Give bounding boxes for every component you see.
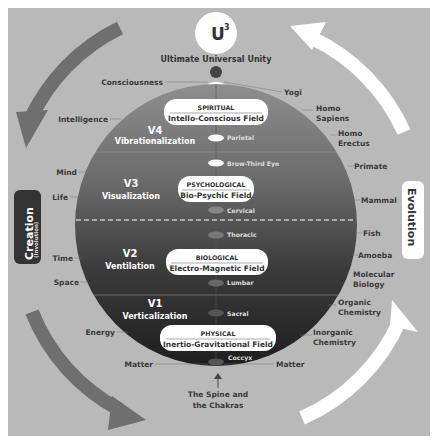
- field-biological: BIOLOGICAL Electro-Magnetic Field: [166, 249, 268, 275]
- svg-text:Inertio-Gravitational Field: Inertio-Gravitational Field: [163, 340, 273, 349]
- caption-line1: The Spine and: [188, 390, 248, 399]
- svg-text:Sacral: Sacral: [227, 310, 249, 317]
- svg-text:BIOLOGICAL: BIOLOGICAL: [196, 254, 239, 261]
- label-inorganic-chemistry: InorganicChemistry: [313, 328, 356, 347]
- label-mammal: Mammal: [361, 196, 397, 205]
- label-organic-chemistry: OrganicChemistry: [338, 298, 381, 317]
- level-v4-name: Vibrationalization: [115, 137, 196, 146]
- chakra-sacral: Sacral: [208, 310, 249, 318]
- field-spiritual: SPIRITUAL Intello-Conscious Field: [164, 99, 268, 125]
- level-v1-id: V1: [148, 298, 163, 309]
- label-homo-erectus: HomoErectus: [338, 129, 370, 148]
- svg-text:(Involution): (Involution): [33, 221, 39, 258]
- label-molecular-biology: MolecularBiology: [353, 270, 395, 289]
- label-yogi: Yogi: [283, 88, 302, 97]
- level-v4-id: V4: [148, 125, 163, 136]
- svg-text:SPIRITUAL: SPIRITUAL: [198, 104, 235, 111]
- caption-line2: the Chakras: [193, 401, 244, 410]
- svg-text:Intello-Conscious Field: Intello-Conscious Field: [168, 114, 264, 123]
- label-life: Life: [52, 193, 68, 202]
- chakra-evolution-diagram: U 3 Ultimate Universal Unity SPIRITUAL I…: [0, 0, 437, 443]
- chakra-cervical: Cervical: [208, 207, 255, 215]
- chakra-parietal: Parietal: [208, 134, 254, 142]
- label-energy: Energy: [85, 328, 115, 337]
- label-matter-right: Matter: [276, 360, 305, 369]
- label-space: Space: [54, 278, 79, 287]
- up-arrow-icon: [214, 373, 222, 379]
- label-amoeba: Amoeba: [358, 251, 392, 260]
- level-v3-id: V3: [124, 178, 139, 189]
- unity-symbol: U: [211, 24, 225, 44]
- svg-text:PSYCHOLOGICAL: PSYCHOLOGICAL: [187, 181, 246, 188]
- label-mind: Mind: [56, 168, 77, 177]
- label-primate: Primate: [354, 162, 387, 171]
- level-v3-name: Visualization: [102, 192, 160, 201]
- field-physical: PHYSICAL Inertio-Gravitational Field: [160, 325, 276, 351]
- level-v2-name: Ventilation: [105, 262, 155, 271]
- chakra-thoracic: Thoracic: [208, 231, 257, 239]
- svg-text:Lumbar: Lumbar: [227, 279, 254, 286]
- svg-text:Brow-Third Eye: Brow-Third Eye: [227, 160, 279, 168]
- unity-superscript: 3: [224, 23, 230, 32]
- unity-title: Ultimate Universal Unity: [161, 55, 273, 64]
- label-time: Time: [52, 254, 73, 263]
- label-matter-left: Matter: [125, 360, 154, 369]
- creation-arrow-top: [16, 28, 120, 148]
- svg-text:PHYSICAL: PHYSICAL: [201, 330, 236, 337]
- sphere: [60, 84, 380, 366]
- label-fish: Fish: [363, 229, 381, 238]
- svg-text:Evolution: Evolution: [405, 188, 418, 246]
- level-v1-name: Verticalization: [122, 312, 187, 321]
- svg-text:Bio-Psychic Field: Bio-Psychic Field: [180, 191, 251, 200]
- field-psychological: PSYCHOLOGICAL Bio-Psychic Field: [178, 176, 254, 202]
- svg-text:Electro-Magnetic Field: Electro-Magnetic Field: [169, 264, 264, 273]
- label-consciousness: Consciousness: [101, 78, 163, 87]
- svg-text:Thoracic: Thoracic: [227, 231, 257, 238]
- svg-text:Parietal: Parietal: [227, 134, 254, 141]
- label-homo-sapiens: HomoSapiens: [316, 104, 350, 123]
- label-intelligence: Intelligence: [58, 115, 108, 124]
- crown-dot: [210, 66, 222, 78]
- chakra-lumbar: Lumbar: [208, 279, 254, 287]
- svg-text:Cervical: Cervical: [227, 207, 255, 214]
- evolution-label: Evolution: [402, 181, 424, 259]
- creation-label: Creation (Involution): [14, 190, 41, 264]
- svg-text:Coccyx: Coccyx: [228, 354, 252, 362]
- level-v2-id: V2: [123, 248, 138, 259]
